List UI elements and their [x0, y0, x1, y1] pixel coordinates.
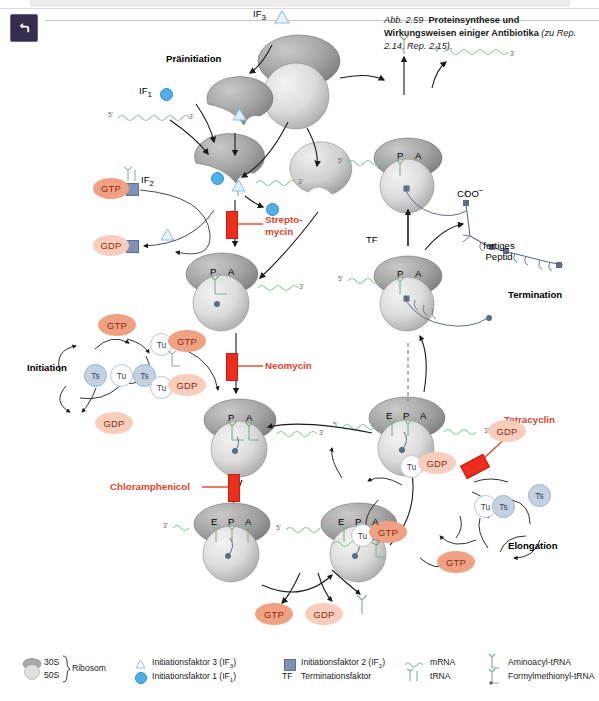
brace-icon — [62, 655, 70, 683]
ribosome-legend-icon — [22, 657, 42, 681]
gdp-tu-complex: GDP — [168, 374, 206, 396]
site-label-A-elong: A — [246, 412, 252, 423]
antibiotic-label-neomycin: Neomycin — [265, 360, 312, 372]
site-label-E-center: E — [338, 516, 344, 527]
ribosome-subunit-50s: 50S — [44, 670, 59, 680]
site-label-P-elong: P — [228, 412, 234, 423]
ts-initiation-left: Ts — [84, 364, 107, 387]
site-label-P-term-lower: P — [397, 268, 403, 279]
site-label-A-init: A — [228, 266, 234, 277]
triangle-icon — [135, 659, 146, 669]
legend-item-if2: Initiationsfaktor 2 (IF2) — [301, 657, 385, 669]
mrna-3prime-6: 3' — [484, 427, 489, 434]
mrna-5prime-epa-center: 5' — [276, 524, 281, 531]
streptomycin-block-bar — [226, 211, 238, 239]
blue-circle-icon — [135, 672, 147, 684]
site-label-E-left: E — [211, 516, 217, 527]
site-label-A-term-lower: A — [415, 268, 421, 279]
mrna-5prime-top: 5' — [435, 45, 440, 52]
mrna-3prime-1: 3' — [189, 113, 194, 120]
site-label-P-left: P — [228, 516, 234, 527]
site-label-P-right: P — [403, 410, 409, 421]
mrna-5prime-term-upper: 5' — [338, 157, 343, 164]
mrna-3prime-4: 3' — [319, 429, 324, 436]
figure-legend: 30S 50S Ribosom Initiationsfaktor 3 (IF3… — [0, 646, 599, 701]
legend-item-trna: tRNA — [430, 671, 451, 681]
mrna-3prime-2: 3' — [298, 178, 303, 185]
legend-item-tf: Terminationsfaktor — [301, 671, 371, 681]
ribosome-subunit-30s: 30S — [44, 657, 59, 667]
ts-elongation-free: Ts — [528, 484, 551, 507]
antibiotic-label-streptomycin: Strepto- mycin — [265, 214, 303, 237]
ribosome-legend-label: Ribosom — [72, 663, 106, 673]
antibiotic-label-chloramphenicol: Chloramphenicol — [110, 481, 190, 493]
gtp-initiation-input: GTP — [98, 314, 136, 336]
neomycin-block-bar — [226, 353, 238, 381]
mrna-5prime-1: 5' — [108, 111, 113, 118]
trna-icon — [406, 669, 422, 683]
mrna-5prime-elong-right: 5' — [333, 421, 338, 428]
gdp-translocation-output: GDP — [305, 603, 343, 625]
mrna-5prime-term-lower: 5' — [338, 275, 343, 282]
legend-item-if1: Initiationsfaktor 1 (IF1) — [152, 671, 236, 683]
site-label-A-right: A — [420, 410, 426, 421]
legend-item-if3: Initiationsfaktor 3 (IF3) — [152, 657, 236, 669]
ts-elongation-bound: Ts — [492, 495, 515, 518]
aminoacyl-trna-icon — [487, 654, 503, 670]
legend-item-fmet-trna: Formylmethionyl-tRNA — [508, 671, 594, 681]
chloramphenicol-block-bar — [228, 474, 240, 502]
gtp-tu-complex: GTP — [168, 330, 206, 352]
finished-peptide-label: fertiges Peptid — [469, 240, 529, 262]
fmet-trna-icon — [487, 669, 503, 685]
tf-text-icon: TF — [282, 671, 293, 681]
site-label-A-center: A — [372, 516, 378, 527]
site-label-A-term-upper: A — [415, 150, 421, 161]
wave-icon — [404, 660, 426, 668]
figure-canvas: Abb. 2.59 Proteinsynthese und Wirkungswe… — [0, 0, 599, 701]
mrna-3prime-epa-left: 3' — [163, 522, 168, 529]
gdp-elongation-output: GDP — [488, 420, 526, 442]
gdp-initiation-output: GDP — [95, 412, 133, 434]
site-label-P-init: P — [210, 266, 216, 277]
site-label-P-term-upper: P — [397, 150, 403, 161]
gtp-elongation-input: GTP — [437, 551, 475, 573]
gdp-tu-elongation: GDP — [418, 452, 456, 474]
if2-cycle-arcs — [0, 0, 599, 646]
blue-square-icon — [284, 659, 296, 671]
tf-label: TF — [366, 234, 378, 245]
site-label-E-right: E — [386, 410, 392, 421]
aminoacyl-trna-icon-elong — [370, 541, 392, 559]
site-label-P-center: P — [355, 516, 361, 527]
site-label-A-left: A — [245, 516, 251, 527]
aminoacyl-trna-icon-init — [166, 350, 188, 368]
legend-item-mrna: mRNA — [430, 657, 455, 667]
tu-initiation-center: Tu — [110, 364, 133, 387]
mrna-3prime-top: 3' — [510, 50, 515, 57]
mrna-3prime-5: 3' — [375, 539, 380, 546]
gtp-translocation-input: GTP — [255, 603, 293, 625]
legend-item-aminoacyl-trna: Aminoacyl-tRNA — [508, 657, 571, 667]
mrna-3prime-3: 3' — [299, 283, 304, 290]
peptide-c-terminus-label: COO− — [457, 186, 484, 199]
